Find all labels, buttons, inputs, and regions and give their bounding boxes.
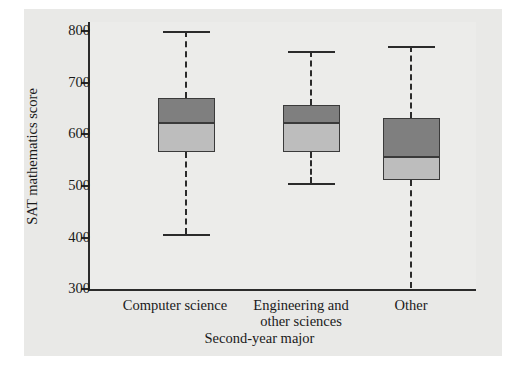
upper-whisker-line (310, 51, 312, 105)
upper-whisker-cap (388, 46, 435, 48)
box-upper-quartile (383, 118, 440, 157)
box-lower-quartile (383, 157, 440, 180)
x-tick-label-computer-science: Computer science (110, 297, 240, 313)
upper-whisker-cap (288, 51, 335, 53)
y-tick-label-600: 600 (44, 126, 90, 141)
x-tick-label-line2: other sciences (236, 313, 366, 329)
y-tick-label-800: 800 (44, 23, 90, 38)
lower-whisker-cap (163, 234, 210, 236)
y-tick-label-300: 300 (44, 281, 90, 296)
boxplot-figure: 800 700 600 500 400 300 SAT mathematics … (0, 0, 519, 366)
x-tick-label-line1: Computer science (110, 297, 240, 313)
y-tick-label-500: 500 (44, 178, 90, 193)
box-upper-quartile (283, 105, 340, 123)
y-tick-label-700: 700 (44, 75, 90, 90)
box-lower-quartile (283, 123, 340, 151)
y-tick-label-400: 400 (44, 230, 90, 245)
y-axis-title: SAT mathematics score (24, 47, 41, 267)
lower-whisker-line (410, 180, 412, 288)
lower-whisker-cap (288, 183, 335, 185)
box-lower-quartile (158, 123, 215, 151)
box-upper-quartile (158, 98, 215, 124)
y-axis-ticks: 800 700 600 500 400 300 (0, 0, 90, 366)
lower-whisker-line (185, 152, 187, 235)
upper-whisker-line (185, 31, 187, 98)
x-tick-label-other: Other (346, 297, 476, 313)
lower-whisker-line (310, 152, 312, 183)
x-axis-title: Second-year major (0, 330, 519, 347)
upper-whisker-cap (163, 31, 210, 33)
x-tick-label-line1: Other (346, 297, 476, 313)
upper-whisker-line (410, 46, 412, 118)
lower-whisker-cap (388, 289, 435, 291)
